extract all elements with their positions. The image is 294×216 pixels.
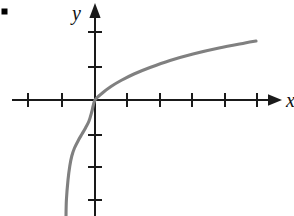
x-axis-label: x <box>285 89 294 111</box>
coordinate-plane-figure: y x <box>0 0 294 216</box>
x-axis-arrowhead-icon <box>268 94 282 106</box>
y-axis-arrowhead-icon <box>89 3 100 18</box>
figure-canvas: y x <box>0 0 294 216</box>
y-axis-label: y <box>70 2 81 25</box>
bullet-marker-icon <box>2 9 8 15</box>
